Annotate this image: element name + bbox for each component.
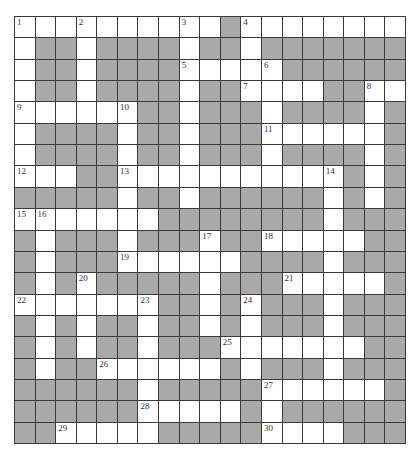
crossword-cell[interactable]: 24 bbox=[241, 295, 261, 315]
crossword-cell[interactable] bbox=[36, 252, 56, 272]
crossword-cell[interactable]: 14 bbox=[324, 166, 344, 186]
crossword-cell[interactable] bbox=[221, 401, 241, 421]
crossword-cell[interactable] bbox=[118, 209, 138, 229]
crossword-cell[interactable] bbox=[385, 81, 405, 101]
crossword-cell[interactable]: 9 bbox=[15, 102, 35, 122]
crossword-cell[interactable] bbox=[56, 17, 76, 37]
crossword-cell[interactable] bbox=[77, 60, 97, 80]
crossword-cell[interactable] bbox=[385, 17, 405, 37]
crossword-cell[interactable] bbox=[324, 316, 344, 336]
crossword-cell[interactable] bbox=[200, 17, 220, 37]
crossword-cell[interactable] bbox=[77, 38, 97, 58]
crossword-cell[interactable] bbox=[180, 38, 200, 58]
crossword-cell[interactable] bbox=[200, 359, 220, 379]
crossword-cell[interactable]: 30 bbox=[262, 423, 282, 443]
crossword-cell[interactable] bbox=[118, 188, 138, 208]
crossword-cell[interactable] bbox=[56, 102, 76, 122]
crossword-cell[interactable] bbox=[180, 188, 200, 208]
crossword-cell[interactable] bbox=[36, 166, 56, 186]
crossword-cell[interactable] bbox=[365, 17, 385, 37]
crossword-cell[interactable] bbox=[138, 380, 158, 400]
crossword-cell[interactable] bbox=[221, 60, 241, 80]
crossword-cell[interactable] bbox=[77, 337, 97, 357]
crossword-cell[interactable] bbox=[77, 209, 97, 229]
crossword-cell[interactable] bbox=[324, 337, 344, 357]
crossword-cell[interactable] bbox=[180, 81, 200, 101]
crossword-cell[interactable] bbox=[118, 359, 138, 379]
crossword-cell[interactable] bbox=[365, 273, 385, 293]
crossword-cell[interactable] bbox=[262, 401, 282, 421]
crossword-cell[interactable] bbox=[200, 273, 220, 293]
crossword-cell[interactable] bbox=[180, 145, 200, 165]
crossword-cell[interactable] bbox=[241, 166, 261, 186]
crossword-cell[interactable] bbox=[241, 337, 261, 357]
crossword-cell[interactable] bbox=[303, 423, 323, 443]
crossword-cell[interactable] bbox=[262, 166, 282, 186]
crossword-cell[interactable] bbox=[303, 337, 323, 357]
crossword-cell[interactable] bbox=[324, 231, 344, 251]
crossword-cell[interactable] bbox=[15, 124, 35, 144]
crossword-cell[interactable] bbox=[200, 252, 220, 272]
crossword-cell[interactable] bbox=[77, 102, 97, 122]
crossword-cell[interactable] bbox=[77, 316, 97, 336]
crossword-cell[interactable] bbox=[283, 423, 303, 443]
crossword-cell[interactable] bbox=[365, 166, 385, 186]
crossword-cell[interactable] bbox=[324, 423, 344, 443]
crossword-cell[interactable]: 8 bbox=[365, 81, 385, 101]
crossword-cell[interactable] bbox=[36, 273, 56, 293]
crossword-cell[interactable] bbox=[262, 102, 282, 122]
crossword-cell[interactable] bbox=[15, 145, 35, 165]
crossword-cell[interactable] bbox=[200, 166, 220, 186]
crossword-cell[interactable] bbox=[138, 316, 158, 336]
crossword-cell[interactable]: 2 bbox=[77, 17, 97, 37]
crossword-cell[interactable] bbox=[36, 17, 56, 37]
crossword-cell[interactable] bbox=[97, 17, 117, 37]
crossword-cell[interactable]: 20 bbox=[77, 273, 97, 293]
crossword-cell[interactable] bbox=[365, 145, 385, 165]
crossword-cell[interactable] bbox=[324, 252, 344, 272]
crossword-cell[interactable] bbox=[283, 380, 303, 400]
crossword-cell[interactable] bbox=[118, 124, 138, 144]
crossword-cell[interactable] bbox=[324, 188, 344, 208]
crossword-cell[interactable] bbox=[118, 145, 138, 165]
crossword-cell[interactable] bbox=[138, 337, 158, 357]
crossword-cell[interactable] bbox=[138, 359, 158, 379]
crossword-cell[interactable] bbox=[324, 295, 344, 315]
crossword-cell[interactable] bbox=[97, 423, 117, 443]
crossword-cell[interactable]: 1 bbox=[15, 17, 35, 37]
crossword-cell[interactable] bbox=[324, 124, 344, 144]
crossword-cell[interactable]: 21 bbox=[283, 273, 303, 293]
crossword-cell[interactable] bbox=[180, 166, 200, 186]
crossword-cell[interactable] bbox=[365, 380, 385, 400]
crossword-cell[interactable] bbox=[344, 17, 364, 37]
crossword-cell[interactable]: 6 bbox=[262, 60, 282, 80]
crossword-cell[interactable] bbox=[118, 231, 138, 251]
crossword-cell[interactable] bbox=[56, 295, 76, 315]
crossword-cell[interactable] bbox=[200, 295, 220, 315]
crossword-cell[interactable] bbox=[56, 209, 76, 229]
crossword-cell[interactable] bbox=[324, 273, 344, 293]
crossword-cell[interactable] bbox=[344, 124, 364, 144]
crossword-cell[interactable] bbox=[15, 81, 35, 101]
crossword-cell[interactable] bbox=[324, 17, 344, 37]
crossword-cell[interactable] bbox=[221, 252, 241, 272]
crossword-cell[interactable] bbox=[200, 60, 220, 80]
crossword-cell[interactable] bbox=[283, 337, 303, 357]
crossword-cell[interactable] bbox=[344, 231, 364, 251]
crossword-cell[interactable] bbox=[159, 401, 179, 421]
crossword-cell[interactable] bbox=[15, 60, 35, 80]
crossword-cell[interactable] bbox=[138, 423, 158, 443]
crossword-cell[interactable] bbox=[138, 166, 158, 186]
crossword-cell[interactable]: 7 bbox=[241, 81, 261, 101]
crossword-cell[interactable] bbox=[180, 359, 200, 379]
crossword-cell[interactable]: 29 bbox=[56, 423, 76, 443]
crossword-cell[interactable] bbox=[262, 337, 282, 357]
crossword-cell[interactable] bbox=[241, 38, 261, 58]
crossword-cell[interactable] bbox=[303, 273, 323, 293]
crossword-cell[interactable] bbox=[324, 359, 344, 379]
crossword-cell[interactable] bbox=[118, 423, 138, 443]
crossword-cell[interactable] bbox=[159, 252, 179, 272]
crossword-cell[interactable] bbox=[77, 295, 97, 315]
crossword-cell[interactable] bbox=[200, 401, 220, 421]
crossword-cell[interactable] bbox=[138, 252, 158, 272]
